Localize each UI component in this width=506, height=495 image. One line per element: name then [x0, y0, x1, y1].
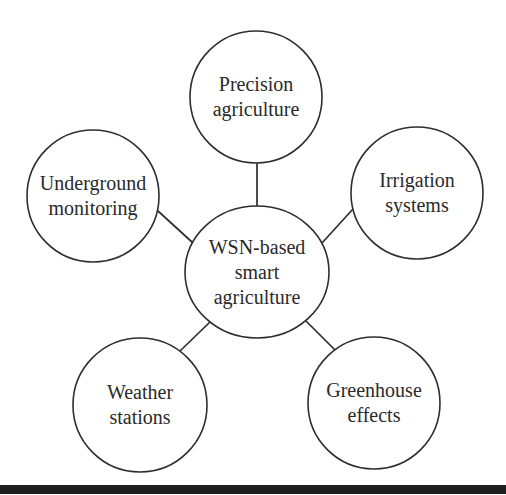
- center-node-label-line: agriculture: [209, 285, 306, 310]
- node-underground-monitoring-label-line: Underground: [40, 171, 146, 196]
- connector-greenhouse-effects: [306, 321, 335, 350]
- connector-underground-monitoring: [158, 211, 193, 243]
- connector-weather-stations: [180, 322, 210, 351]
- node-underground-monitoring-label-line: monitoring: [40, 196, 146, 221]
- node-precision-agriculture-label-line: agriculture: [213, 97, 300, 122]
- node-greenhouse-effects-label: Greenhouseeffects: [326, 378, 422, 428]
- node-weather-stations-label-line: Weather: [107, 380, 173, 405]
- node-weather-stations-label-line: stations: [107, 405, 173, 430]
- node-underground-monitoring-label: Undergroundmonitoring: [40, 171, 146, 221]
- bottom-rule: [0, 485, 506, 494]
- node-greenhouse-effects-label-line: effects: [326, 403, 422, 428]
- center-node-label: WSN-basedsmartagriculture: [209, 235, 306, 310]
- node-irrigation-systems-label: Irrigationsystems: [379, 168, 455, 218]
- node-irrigation-systems-label-line: Irrigation: [379, 168, 455, 193]
- node-greenhouse-effects-label-line: Greenhouse: [326, 378, 422, 403]
- center-node-label-line: smart: [209, 260, 306, 285]
- center-node-label-line: WSN-based: [209, 235, 306, 260]
- node-weather-stations-label: Weatherstations: [107, 380, 173, 430]
- node-precision-agriculture-label-line: Precision: [213, 72, 300, 97]
- node-irrigation-systems-label-line: systems: [379, 193, 455, 218]
- node-precision-agriculture-label: Precisionagriculture: [213, 72, 300, 122]
- connector-irrigation-systems: [322, 209, 353, 243]
